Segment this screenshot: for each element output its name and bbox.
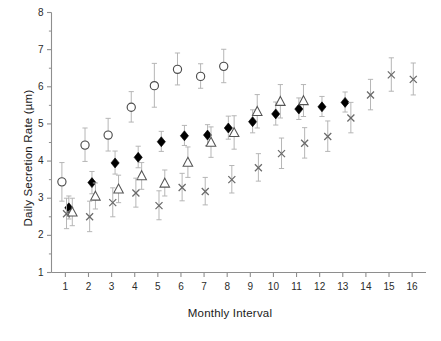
datapoint <box>86 201 93 231</box>
chart-figure: Daily Secretion Rate (µm) Monthly Interv… <box>0 0 441 341</box>
marker-circle-open <box>58 178 66 186</box>
datapoint <box>388 58 395 91</box>
datapoint <box>173 53 181 85</box>
marker-triangle-open <box>276 96 286 105</box>
datapoint <box>324 121 331 151</box>
datapoint <box>157 131 165 151</box>
series-open-triangle <box>68 85 309 226</box>
marker-diamond-filled <box>134 152 142 162</box>
datapoint <box>150 63 158 107</box>
marker-diamond-filled <box>318 102 326 112</box>
series-filled-diamond <box>65 92 349 219</box>
marker-circle-open <box>173 65 181 73</box>
datapoint <box>104 118 112 151</box>
marker-circle-open <box>150 82 158 90</box>
datapoint <box>114 175 124 202</box>
marker-triangle-open <box>183 157 193 166</box>
marker-diamond-filled <box>295 104 303 114</box>
marker-diamond-filled <box>272 109 280 119</box>
marker-circle-open <box>81 141 89 149</box>
marker-diamond-filled <box>111 158 119 168</box>
marker-circle-open <box>197 72 205 80</box>
marker-triangle-open <box>160 178 170 187</box>
marker-circle-open <box>220 62 228 70</box>
datapoint <box>410 63 417 95</box>
datapoint <box>111 151 119 174</box>
datapoint <box>347 102 354 132</box>
datapoint <box>160 170 170 196</box>
datapoint <box>132 178 139 207</box>
datapoint <box>58 163 66 202</box>
plot-canvas <box>0 0 441 341</box>
datapoint <box>278 138 285 168</box>
marker-diamond-filled <box>249 117 257 127</box>
marker-diamond-filled <box>180 131 188 141</box>
datapoint <box>318 96 326 116</box>
datapoint <box>180 125 188 145</box>
marker-triangle-open <box>299 96 309 105</box>
datapoint <box>229 116 239 149</box>
marker-diamond-filled <box>224 123 232 133</box>
datapoint <box>197 64 205 89</box>
datapoint <box>134 146 142 168</box>
datapoint <box>155 191 162 220</box>
marker-triangle-open <box>252 106 262 115</box>
datapoint <box>301 128 308 158</box>
datapoint <box>255 154 262 181</box>
datapoint <box>127 92 135 122</box>
marker-circle-open <box>104 131 112 139</box>
datapoint <box>220 49 228 82</box>
series-cross-marker <box>63 58 417 232</box>
marker-diamond-filled <box>341 97 349 107</box>
datapoint <box>367 79 374 109</box>
datapoint <box>81 128 89 161</box>
datapoint <box>179 173 186 200</box>
datapoint <box>183 147 193 177</box>
datapoint <box>202 177 209 204</box>
marker-triangle-open <box>114 184 124 193</box>
marker-circle-open <box>127 103 135 111</box>
datapoint <box>341 92 349 112</box>
marker-diamond-filled <box>157 137 165 147</box>
datapoint <box>228 166 235 193</box>
